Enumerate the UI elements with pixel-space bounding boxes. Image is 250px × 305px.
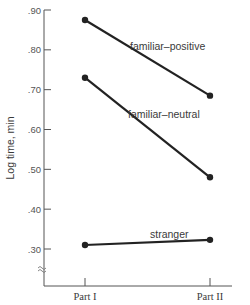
axis-break-icon <box>38 267 46 270</box>
series-label: familiar–positive <box>130 40 205 52</box>
data-point <box>82 242 88 248</box>
series-line <box>85 78 210 178</box>
x-category-label: Part I <box>73 291 97 302</box>
data-point <box>207 174 213 180</box>
y-tick-label: .40 <box>28 204 41 215</box>
axis-break-icon <box>38 270 46 273</box>
x-category-label: Part II <box>197 291 224 302</box>
series-line <box>85 240 210 245</box>
series-line <box>85 20 210 96</box>
data-point <box>82 75 88 81</box>
series-label: familiar–neutral <box>128 108 200 120</box>
data-point <box>82 17 88 23</box>
y-axis-title: Log time, min <box>4 116 16 179</box>
series-label: stranger <box>150 228 189 240</box>
data-point <box>207 92 213 98</box>
y-tick-label: .70 <box>28 84 41 95</box>
y-tick-label: .30 <box>28 244 41 255</box>
y-tick-label: .50 <box>28 164 41 175</box>
y-tick-label: .60 <box>28 124 41 135</box>
line-chart: .30.40.50.60.70.80.90Part IPart IILog ti… <box>0 0 250 305</box>
y-tick-label: .80 <box>28 44 41 55</box>
data-point <box>207 237 213 243</box>
y-tick-label: .90 <box>28 5 41 16</box>
